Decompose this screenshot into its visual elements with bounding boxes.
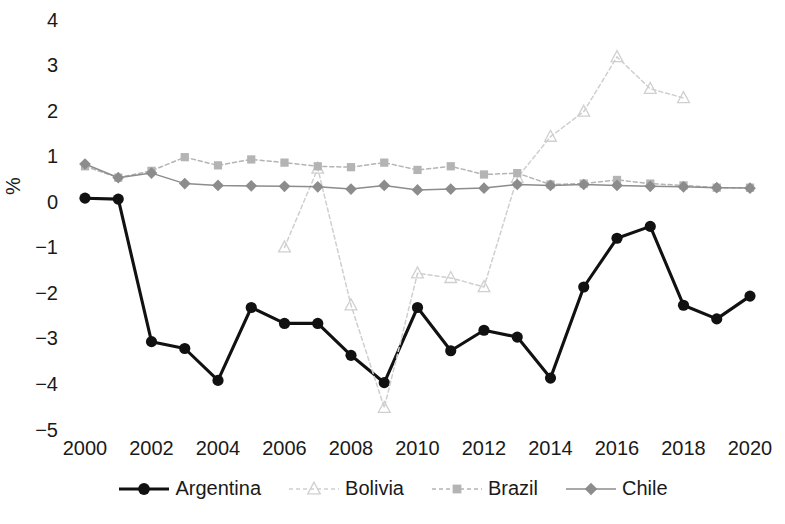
legend-label: Brazil xyxy=(488,477,538,500)
data-point-marker xyxy=(113,193,124,204)
data-point-marker xyxy=(711,313,722,324)
data-point-marker xyxy=(212,375,223,386)
legend-label: Bolivia xyxy=(345,477,404,500)
data-point-marker xyxy=(279,180,291,192)
data-point-marker xyxy=(212,180,224,192)
legend-item-brazil[interactable]: Brazil xyxy=(430,477,538,500)
data-point-marker xyxy=(744,291,755,302)
data-point-marker xyxy=(478,182,490,194)
data-point-marker xyxy=(513,169,521,177)
legend-item-bolivia[interactable]: Bolivia xyxy=(287,477,404,500)
legend-swatch-triangle-icon xyxy=(287,479,341,499)
data-point-marker xyxy=(445,183,457,195)
series-argentina xyxy=(79,193,755,389)
data-point-marker xyxy=(314,162,322,170)
data-point-marker xyxy=(246,302,257,313)
data-point-marker xyxy=(279,318,290,329)
legend-swatch-square-icon xyxy=(430,479,484,499)
data-point-marker xyxy=(578,281,589,292)
chart-container: % 43210−1−2−3−4−5 2000200220042006200820… xyxy=(0,0,785,524)
data-point-marker xyxy=(146,336,157,347)
series-chile xyxy=(79,158,756,196)
data-point-marker xyxy=(379,377,390,388)
data-point-marker xyxy=(308,482,321,494)
chart-legend: ArgentinaBoliviaBrazilChile xyxy=(0,477,785,500)
data-point-marker xyxy=(412,184,424,196)
legend-item-argentina[interactable]: Argentina xyxy=(117,477,261,500)
data-point-marker xyxy=(585,482,597,494)
data-point-marker xyxy=(245,180,257,192)
data-point-marker xyxy=(79,193,90,204)
data-point-marker xyxy=(644,82,656,93)
data-point-marker xyxy=(181,153,189,161)
series-bolivia xyxy=(279,51,690,413)
data-point-marker xyxy=(678,300,689,311)
data-point-marker xyxy=(380,159,388,167)
data-point-marker xyxy=(611,233,622,244)
data-point-marker xyxy=(511,179,523,191)
data-point-marker xyxy=(413,166,421,174)
series-line xyxy=(285,57,684,408)
data-point-marker xyxy=(545,373,556,384)
data-point-marker xyxy=(347,163,355,171)
data-point-marker xyxy=(478,325,489,336)
data-point-marker xyxy=(378,180,390,192)
data-point-marker xyxy=(345,350,356,361)
data-point-marker xyxy=(611,51,623,62)
legend-label: Chile xyxy=(622,477,668,500)
data-point-marker xyxy=(453,484,462,493)
data-point-marker xyxy=(512,332,523,343)
data-point-marker xyxy=(139,483,151,495)
data-point-marker xyxy=(312,318,323,329)
data-point-marker xyxy=(179,178,191,190)
data-point-marker xyxy=(480,170,488,178)
legend-swatch-diamond-icon xyxy=(564,479,618,499)
data-point-marker xyxy=(445,272,457,283)
data-point-marker xyxy=(214,161,222,169)
data-point-marker xyxy=(247,155,255,163)
data-point-marker xyxy=(445,345,456,356)
legend-item-chile[interactable]: Chile xyxy=(564,477,668,500)
legend-swatch-circle-icon xyxy=(117,479,171,499)
data-point-marker xyxy=(412,302,423,313)
data-point-marker xyxy=(179,343,190,354)
data-point-marker xyxy=(645,221,656,232)
data-point-marker xyxy=(280,159,288,167)
legend-label: Argentina xyxy=(175,477,261,500)
plot-area xyxy=(0,0,785,524)
data-point-marker xyxy=(345,183,357,195)
data-point-marker xyxy=(447,162,455,170)
